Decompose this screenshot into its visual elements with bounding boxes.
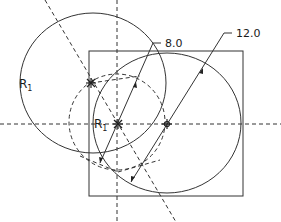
arrowhead-12-bottom <box>131 176 135 182</box>
construction-line-3 <box>118 160 160 172</box>
r1-center-mark-icon <box>86 78 96 88</box>
arrowhead-12-top <box>199 68 203 74</box>
diagonal-centerline <box>45 0 176 222</box>
label-r1-center-sub: 1 <box>102 124 107 133</box>
dimension-label-12: 12.0 <box>236 28 261 39</box>
label-r1-outer-sub: 1 <box>27 84 32 93</box>
large-center-mark-icon <box>162 119 172 129</box>
origin-center-mark-icon <box>113 119 123 129</box>
dimension-line-12 <box>131 33 224 182</box>
dimension-label-8: 8.0 <box>165 38 183 49</box>
arrowhead-8-bottom <box>99 157 103 163</box>
label-r1-outer: R1 <box>19 78 32 93</box>
label-r1-center: R1 <box>94 118 107 133</box>
